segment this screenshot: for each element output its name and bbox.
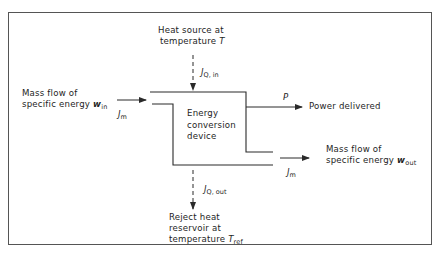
- mass-in-label: Mass flow of specific energy win: [22, 88, 108, 113]
- reject-heat-line3-text: temperature: [169, 234, 225, 244]
- power-delivered-label: Power delivered: [309, 101, 381, 112]
- reject-heat-line3: temperature Tref: [169, 234, 243, 248]
- heat-source-line2: temperature T: [158, 36, 225, 47]
- reject-heat-label: Reject heat reservoir at temperature Tre…: [169, 212, 243, 248]
- power-symbol: P: [283, 92, 288, 102]
- ref-temperature-sub: ref: [234, 238, 243, 246]
- mass-out-line2: specific energy wout: [326, 155, 416, 169]
- temperature-symbol: T: [219, 36, 224, 46]
- heat-out-flow-sub: Q, out: [207, 188, 227, 196]
- heat-source-label: Heat source at temperature T: [158, 25, 225, 47]
- heat-out-flow-label: JQ, out: [204, 184, 226, 196]
- heat-source-line1: Heat source at: [158, 25, 225, 36]
- reject-heat-line1: Reject heat: [169, 212, 243, 223]
- reject-heat-line2: reservoir at: [169, 223, 243, 234]
- energy-conversion-diagram: Heat source at temperature T JQ, in Mass…: [0, 0, 440, 255]
- mass-out-line2-text: specific energy: [326, 155, 394, 165]
- heat-in-flow-sub: Q, in: [204, 71, 219, 79]
- mass-in-line1: Mass flow of: [22, 88, 108, 99]
- mass-in-energy-symbol: w: [93, 99, 101, 109]
- heat-in-flow-label: JQ, in: [201, 67, 219, 79]
- device-label: Energy conversion device: [187, 108, 236, 143]
- mass-out-label: Mass flow of specific energy wout: [326, 144, 416, 169]
- device-label-line1: Energy: [187, 108, 236, 120]
- mass-in-line2: specific energy win: [22, 99, 108, 113]
- mass-in-line2-text: specific energy: [22, 99, 90, 109]
- mass-in-energy-sub: in: [101, 103, 107, 111]
- heat-source-line2-text: temperature: [160, 36, 216, 46]
- mass-out-energy-symbol: w: [397, 155, 405, 165]
- mass-in-flow-label: Jm: [118, 109, 127, 121]
- mass-out-energy-sub: out: [405, 159, 416, 167]
- mass-out-flow-sub: m: [290, 171, 296, 179]
- device-label-line2: conversion: [187, 120, 236, 132]
- mass-out-line1: Mass flow of: [326, 144, 416, 155]
- mass-in-flow-sub: m: [121, 113, 127, 121]
- device-label-line3: device: [187, 131, 236, 143]
- mass-out-flow-label: Jm: [287, 167, 296, 179]
